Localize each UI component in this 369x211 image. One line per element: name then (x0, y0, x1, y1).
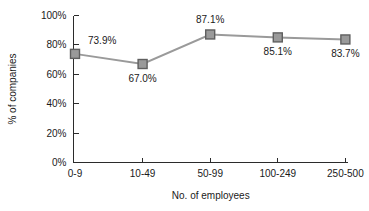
data-point-label: 73.9% (88, 35, 116, 46)
x-axis-tick-label: 50-99 (197, 168, 223, 179)
data-point-marker (273, 33, 282, 42)
x-axis-tick-label: 10-49 (130, 168, 156, 179)
data-point-label: 87.1% (196, 14, 224, 25)
data-point-label: 67.0% (128, 73, 156, 84)
data-point-marker (206, 30, 215, 39)
x-axis-title: No. of employees (172, 190, 250, 201)
x-axis-tick-label: 0-9 (68, 168, 83, 179)
chart-container: 0%20%40%60%80%100% 0-910-4950-99100-2492… (0, 0, 369, 211)
y-axis-tick-label: 20% (46, 128, 66, 139)
y-axis-tick-label: 0% (52, 157, 67, 168)
data-point-marker (138, 60, 147, 69)
y-axis-tick-label: 80% (46, 39, 66, 50)
x-axis-tick-label: 250-500 (327, 168, 364, 179)
data-point-label: 85.1% (264, 46, 292, 57)
x-axis-tick-label: 100-249 (259, 168, 296, 179)
y-axis-tick-label: 40% (46, 98, 66, 109)
data-point-marker (71, 49, 80, 58)
data-point-label: 83.7% (331, 48, 359, 59)
line-chart: 0%20%40%60%80%100% 0-910-4950-99100-2492… (0, 0, 369, 211)
y-axis-tick-label: 60% (46, 69, 66, 80)
y-axis-title: % of companies (7, 53, 18, 124)
y-axis-tick-label: 100% (41, 10, 67, 21)
data-point-marker (341, 35, 350, 44)
